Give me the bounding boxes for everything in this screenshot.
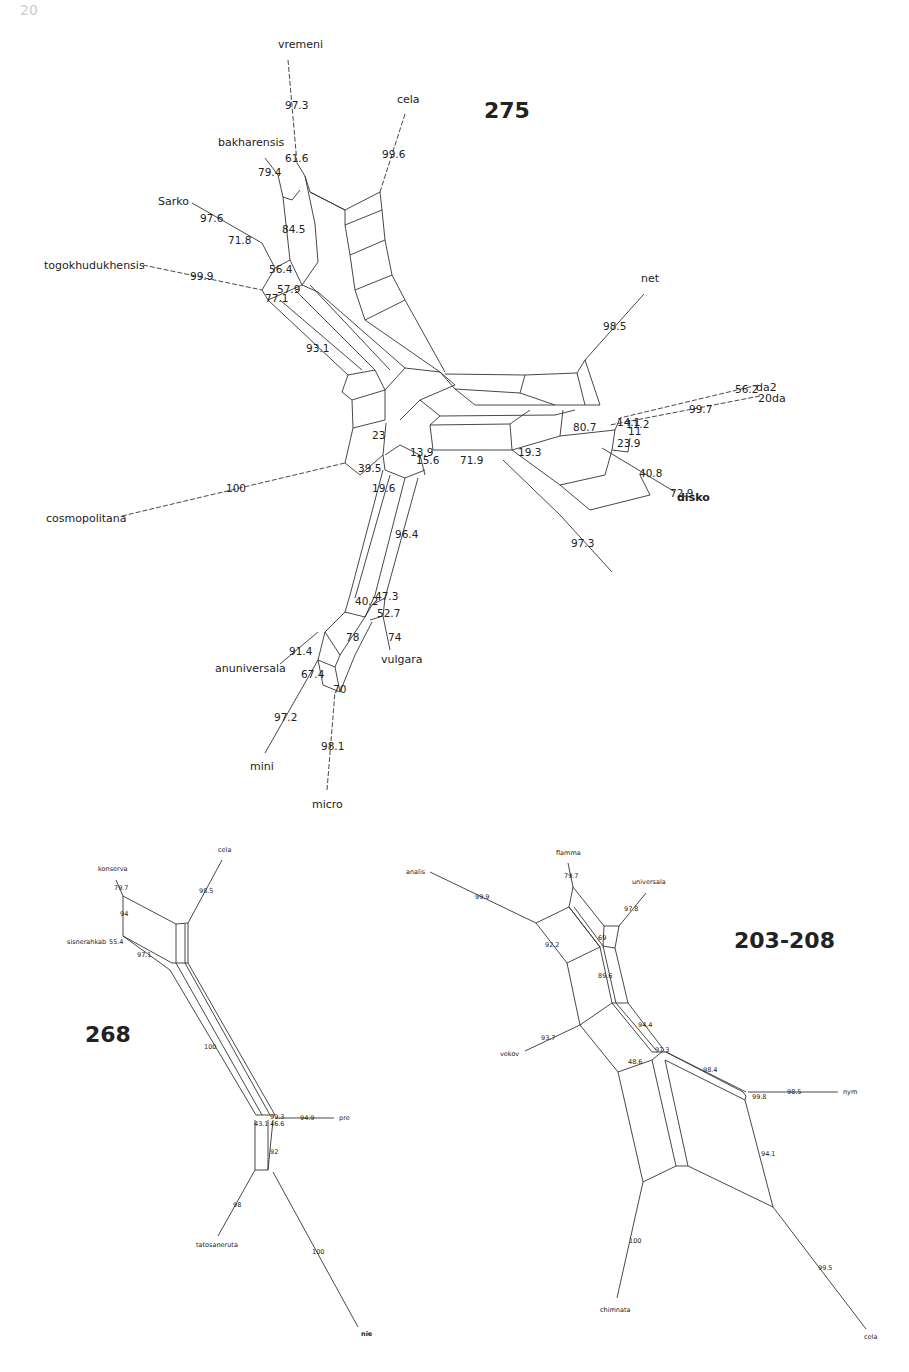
taxon-label: cela xyxy=(864,1333,877,1341)
taxon-label: universala xyxy=(632,878,666,886)
network-268: 268 cela konserva sisnerahkab pre xyxy=(67,846,373,1338)
support-value: 67.4 xyxy=(301,668,325,680)
support-values-268: 98.5 79.7 94 55.4 97.1 100 99.3 94.9 43.… xyxy=(109,884,324,1256)
support-value: 99.6 xyxy=(382,148,406,160)
support-value: 99.8 xyxy=(752,1093,766,1101)
support-value: 100 xyxy=(226,482,246,494)
support-value: 19.3 xyxy=(518,446,541,458)
support-value: 79.4 xyxy=(258,166,282,178)
support-value: 99.5 xyxy=(818,1264,832,1272)
support-value: 97.2 xyxy=(274,711,297,723)
support-value: 94.9 xyxy=(300,1114,314,1122)
support-value: 100 xyxy=(629,1237,641,1245)
taxon-label: chimnata xyxy=(600,1306,630,1314)
taxon-label: mini xyxy=(250,760,274,773)
support-value: 99.7 xyxy=(689,403,712,415)
taxon-label: nym xyxy=(843,1088,857,1096)
support-value: 99.9 xyxy=(190,270,213,282)
support-value: 89.6 xyxy=(598,972,612,980)
taxon-label: 20da xyxy=(758,392,786,405)
support-value: 98 xyxy=(233,1201,241,1209)
taxon-label: flamma xyxy=(556,849,581,857)
support-value: 71.9 xyxy=(460,454,483,466)
support-value: 40.8 xyxy=(639,467,662,479)
support-values-275: 97.3 99.6 61.6 79.4 97.6 71.8 84.5 56.4 … xyxy=(190,99,758,752)
taxon-label: nie xyxy=(361,1330,373,1338)
support-value: 91.4 xyxy=(289,645,313,657)
network-203-208: 203-208 xyxy=(406,849,877,1341)
support-value: 97.1 xyxy=(137,951,151,959)
taxon-labels-275: vremeni cela bakharensis Sarko togokhudu… xyxy=(44,38,786,811)
support-value: 15.6 xyxy=(416,454,440,466)
taxon-label: vekov xyxy=(500,1050,519,1058)
support-value: 93.7 xyxy=(541,1034,555,1042)
support-value: 97.3 xyxy=(571,537,594,549)
support-value: 43.1 xyxy=(254,1120,268,1128)
taxon-label: cela xyxy=(397,93,420,106)
taxon-label: pre xyxy=(339,1114,350,1122)
split-networks-figure: 275 xyxy=(0,0,909,1372)
support-value: 71.8 xyxy=(228,234,251,246)
support-value: 97.6 xyxy=(200,212,224,224)
support-value: 72.9 xyxy=(670,487,693,499)
taxon-label: vremeni xyxy=(278,38,323,51)
support-value: 94.4 xyxy=(638,1021,652,1029)
taxon-label: bakharensis xyxy=(218,136,285,149)
support-value: 11 xyxy=(628,425,641,437)
support-value: 84.5 xyxy=(282,223,305,235)
taxon-labels-203-208: flamma analis universala vekov nym chimn… xyxy=(406,849,877,1341)
support-value: 77.1 xyxy=(265,292,288,304)
support-value: 97.3 xyxy=(285,99,308,111)
support-value: 98.1 xyxy=(321,740,344,752)
support-value: 99.9 xyxy=(475,893,489,901)
diagram-title-275: 275 xyxy=(484,98,530,123)
taxon-label: anuniversala xyxy=(215,662,286,675)
support-value: 98.5 xyxy=(603,320,626,332)
support-value: 39.5 xyxy=(358,462,381,474)
support-value: 74 xyxy=(388,631,402,643)
support-value: 80.7 xyxy=(573,421,596,433)
support-value: 56.4 xyxy=(269,263,293,275)
taxon-label: analis xyxy=(406,868,426,876)
support-value: 52.7 xyxy=(377,607,400,619)
diagram-title-203-208: 203-208 xyxy=(734,928,835,953)
support-value: 48.6 xyxy=(628,1058,642,1066)
taxon-label: micro xyxy=(312,798,343,811)
support-value: 97.3 xyxy=(655,1046,669,1054)
support-value: 61.6 xyxy=(285,152,309,164)
support-value: 70 xyxy=(333,683,346,695)
taxon-label: cosmopolitana xyxy=(46,512,127,525)
taxon-label: cela xyxy=(218,846,231,854)
taxon-label: konserva xyxy=(98,865,128,873)
support-value: 93.1 xyxy=(306,342,329,354)
support-value: 98.4 xyxy=(703,1066,717,1074)
support-value: 94.1 xyxy=(761,1150,775,1158)
network-edges-275 xyxy=(122,60,760,790)
support-value: 98.5 xyxy=(199,887,213,895)
taxon-label: togokhudukhensis xyxy=(44,259,145,272)
support-value: 56.2 xyxy=(735,383,758,395)
support-value: 23.9 xyxy=(617,437,640,449)
support-value: 79.7 xyxy=(564,872,578,880)
support-value: 100 xyxy=(204,1043,216,1051)
support-value: 92 xyxy=(270,1148,278,1156)
network-edges-268 xyxy=(116,860,358,1327)
taxon-label: sisnerahkab xyxy=(67,938,106,946)
support-value: 96.4 xyxy=(395,528,419,540)
support-value: 78 xyxy=(346,631,359,643)
taxon-label: net xyxy=(641,272,660,285)
support-value: 19.6 xyxy=(372,482,396,494)
support-value: 94 xyxy=(120,910,128,918)
support-value: 92.2 xyxy=(545,941,559,949)
support-value: 100 xyxy=(312,1248,324,1256)
support-value: 23 xyxy=(372,429,385,441)
diagram-title-268: 268 xyxy=(85,1022,131,1047)
taxon-label: tatosaneruta xyxy=(196,1241,238,1249)
network-275: 275 xyxy=(44,38,786,811)
support-value: 47.3 xyxy=(375,590,398,602)
support-value: 98.5 xyxy=(787,1088,801,1096)
taxon-label: vulgara xyxy=(381,653,423,666)
support-value: 55.4 xyxy=(109,938,123,946)
taxon-labels-268: cela konserva sisnerahkab pre tatosaneru… xyxy=(67,846,373,1338)
support-value: 46.6 xyxy=(270,1120,284,1128)
